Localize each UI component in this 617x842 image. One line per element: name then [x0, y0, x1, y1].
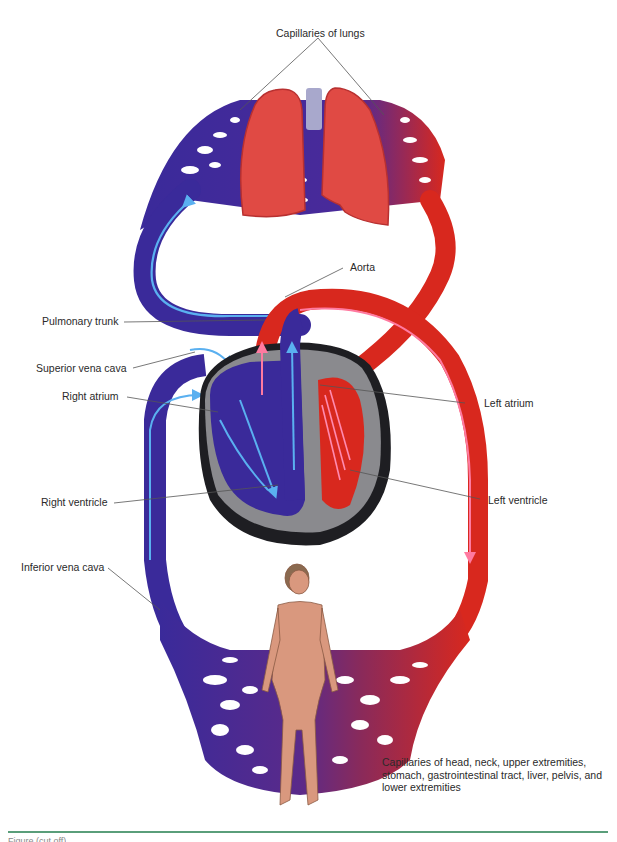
label-right-atrium: Right atrium: [62, 390, 119, 403]
pulmonary-vein-path: [345, 200, 446, 380]
label-capillaries-lungs: Capillaries of lungs: [276, 27, 365, 40]
label-left-atrium: Left atrium: [484, 397, 534, 410]
trachea: [306, 88, 322, 130]
label-left-ventricle: Left ventricle: [488, 494, 548, 507]
footer-rule: [8, 831, 608, 833]
label-pulmonary-trunk: Pulmonary trunk: [42, 315, 118, 328]
circulation-diagram: [0, 0, 617, 842]
label-right-ventricle: Right ventricle: [41, 496, 108, 509]
label-capillaries-body: Capillaries of head, neck, upper extremi…: [382, 756, 617, 794]
label-superior-vena-cava: Superior vena cava: [36, 362, 126, 375]
label-inferior-vena-cava: Inferior vena cava: [21, 561, 104, 574]
figure-caption: Figure (cut off): [8, 836, 66, 842]
label-aorta: Aorta: [350, 261, 375, 274]
